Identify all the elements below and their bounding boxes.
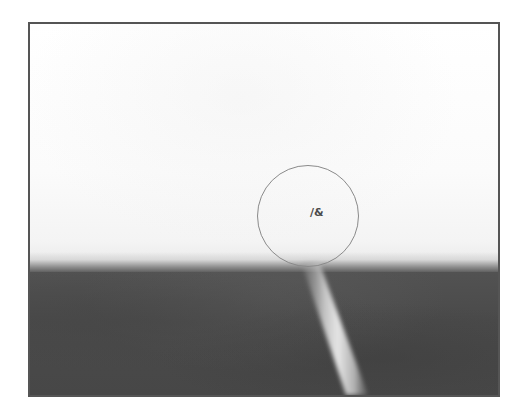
overlay-label: /& bbox=[310, 207, 324, 219]
image-frame: /& bbox=[28, 22, 500, 397]
circle-overlay bbox=[257, 165, 359, 267]
